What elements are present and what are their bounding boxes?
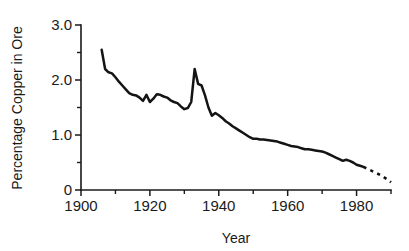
chart-container: 01.02.03.0 19001920194019601980 Percenta… bbox=[0, 0, 409, 251]
y-tick-label: 2.0 bbox=[51, 71, 72, 88]
y-tick-label: 1.0 bbox=[51, 126, 72, 143]
copper-ore-line-chart: 01.02.03.0 19001920194019601980 Percenta… bbox=[0, 0, 409, 251]
x-tick-label: 1960 bbox=[271, 197, 304, 214]
x-tick-label: 1920 bbox=[133, 197, 166, 214]
x-tick-label: 1900 bbox=[64, 197, 97, 214]
x-tick-label: 1980 bbox=[340, 197, 373, 214]
x-tick-label: 1940 bbox=[202, 197, 235, 214]
y-axis-title: Percentage Copper in Ore bbox=[9, 26, 25, 190]
y-tick-label: 3.0 bbox=[51, 16, 72, 33]
x-axis-title: Year bbox=[222, 230, 251, 246]
y-tick-label: 0 bbox=[64, 181, 72, 198]
